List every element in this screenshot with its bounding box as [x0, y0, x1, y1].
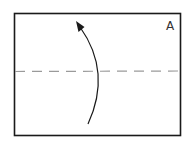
corner-label: A: [166, 19, 175, 33]
fold-diagram: A: [0, 0, 191, 141]
